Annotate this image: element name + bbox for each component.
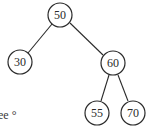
tree-node-50: 50 bbox=[48, 3, 72, 27]
edge-50-30 bbox=[28, 24, 52, 53]
edge-60-70 bbox=[118, 75, 128, 101]
node-label: 60 bbox=[107, 56, 119, 70]
node-label: 55 bbox=[91, 106, 103, 120]
edge-60-55 bbox=[101, 75, 109, 101]
node-label: 70 bbox=[127, 106, 139, 120]
node-label: 50 bbox=[54, 8, 66, 22]
caption-fragment: ee ° bbox=[0, 108, 16, 123]
tree-node-30: 30 bbox=[8, 50, 32, 74]
tree-diagram: 50 30 60 55 70 bbox=[0, 0, 150, 132]
edge-50-60 bbox=[70, 23, 103, 55]
node-label: 30 bbox=[14, 55, 26, 69]
tree-node-60: 60 bbox=[101, 51, 125, 75]
tree-node-70: 70 bbox=[121, 101, 145, 125]
tree-node-55: 55 bbox=[85, 101, 109, 125]
